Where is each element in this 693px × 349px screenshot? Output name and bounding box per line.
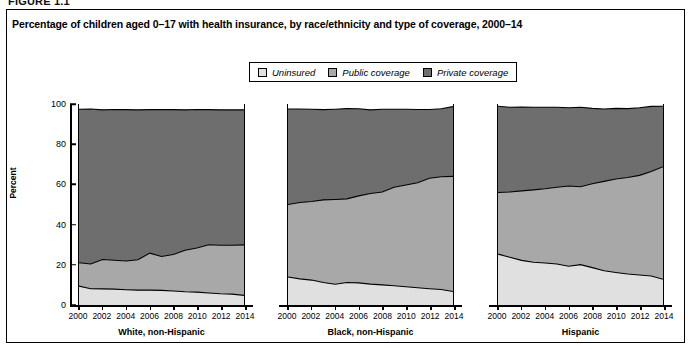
y-tick-label: 0 <box>40 300 66 310</box>
x-tick-mark <box>245 305 247 310</box>
plot-area <box>78 104 245 305</box>
x-tick-mark <box>569 305 571 310</box>
y-tick-mark <box>70 143 76 145</box>
y-tick-label: 80 <box>40 139 66 149</box>
area-band-private-coverage <box>79 109 244 264</box>
x-tick-mark <box>102 305 104 310</box>
x-tick-mark <box>497 305 499 310</box>
x-axis-line <box>279 305 462 307</box>
panel-caption: White, non-Hispanic <box>118 327 205 337</box>
x-tick-mark <box>454 305 456 310</box>
figure-title: Percentage of children aged 0–17 with he… <box>12 18 522 30</box>
x-tick-mark <box>78 305 80 310</box>
figure-number: FIGURE 1.1 <box>8 0 70 7</box>
plot-area <box>287 104 454 305</box>
chart-legend: UninsuredPublic coveragePrivate coverage <box>249 62 517 82</box>
x-tick-mark <box>640 305 642 310</box>
legend-label: Private coverage <box>437 67 508 78</box>
x-tick-mark <box>311 305 313 310</box>
y-tick-label: 60 <box>40 179 66 189</box>
legend-label: Uninsured <box>272 67 315 78</box>
figure-root: FIGURE 1.1 Percentage of children aged 0… <box>0 0 693 349</box>
x-tick-label: 2014 <box>236 311 255 321</box>
legend-item-private-coverage: Private coverage <box>423 67 508 78</box>
y-tick-label: 20 <box>40 260 66 270</box>
x-tick-mark <box>197 305 199 310</box>
uninsured-swatch <box>258 68 267 77</box>
x-tick-mark <box>406 305 408 310</box>
x-tick-label: 2008 <box>583 311 602 321</box>
x-tick-label: 2014 <box>445 311 464 321</box>
panel-caption: Black, non-Hispanic <box>327 327 413 337</box>
x-tick-label: 2012 <box>631 311 650 321</box>
y-tick-label: 100 <box>40 99 66 109</box>
x-tick-label: 2012 <box>212 311 231 321</box>
x-tick-mark <box>592 305 594 310</box>
x-tick-label: 2010 <box>188 311 207 321</box>
chart-panel-black-non-hispanic <box>287 104 454 305</box>
x-tick-label: 2006 <box>349 311 368 321</box>
x-tick-label: 2014 <box>655 311 674 321</box>
x-tick-label: 2000 <box>278 311 297 321</box>
x-tick-mark <box>545 305 547 310</box>
boundary-line-private-coverage <box>79 109 244 110</box>
x-tick-label: 2000 <box>69 311 88 321</box>
x-tick-mark <box>521 305 523 310</box>
y-tick-mark <box>70 184 76 186</box>
x-tick-label: 2008 <box>164 311 183 321</box>
legend-item-public-coverage: Public coverage <box>328 67 410 78</box>
x-tick-label: 2002 <box>301 311 320 321</box>
x-tick-label: 2002 <box>511 311 530 321</box>
legend-item-uninsured: Uninsured <box>258 67 315 78</box>
boundary-line-private-coverage <box>288 107 453 110</box>
x-tick-mark <box>287 305 289 310</box>
x-tick-label: 2010 <box>607 311 626 321</box>
x-tick-label: 2004 <box>116 311 135 321</box>
chart-panel-hispanic <box>497 104 664 305</box>
legend-label: Public coverage <box>342 67 410 78</box>
private-swatch <box>423 68 432 77</box>
x-tick-mark <box>173 305 175 310</box>
plot-area <box>497 104 664 305</box>
y-axis-label: Percent <box>8 167 18 198</box>
public-swatch <box>328 68 337 77</box>
x-tick-mark <box>221 305 223 310</box>
x-tick-label: 2002 <box>92 311 111 321</box>
x-tick-mark <box>430 305 432 310</box>
x-tick-mark <box>664 305 666 310</box>
x-tick-label: 2006 <box>559 311 578 321</box>
y-axis-line <box>70 104 72 306</box>
panel-caption: Hispanic <box>562 327 600 337</box>
x-tick-label: 2008 <box>373 311 392 321</box>
x-tick-label: 2012 <box>421 311 440 321</box>
y-tick-label: 40 <box>40 220 66 230</box>
x-tick-mark <box>382 305 384 310</box>
y-tick-mark <box>70 224 76 226</box>
x-tick-mark <box>150 305 152 310</box>
x-tick-label: 2004 <box>535 311 554 321</box>
x-tick-label: 2010 <box>397 311 416 321</box>
chart-panel-white-non-hispanic <box>78 104 245 305</box>
x-axis-line <box>70 305 253 307</box>
y-tick-mark <box>70 264 76 266</box>
x-axis-line <box>489 305 672 307</box>
y-tick-mark <box>70 103 76 105</box>
x-tick-mark <box>335 305 337 310</box>
x-tick-mark <box>359 305 361 310</box>
x-tick-label: 2004 <box>325 311 344 321</box>
x-tick-label: 2000 <box>488 311 507 321</box>
x-tick-mark <box>616 305 618 310</box>
x-tick-mark <box>126 305 128 310</box>
x-tick-label: 2006 <box>140 311 159 321</box>
